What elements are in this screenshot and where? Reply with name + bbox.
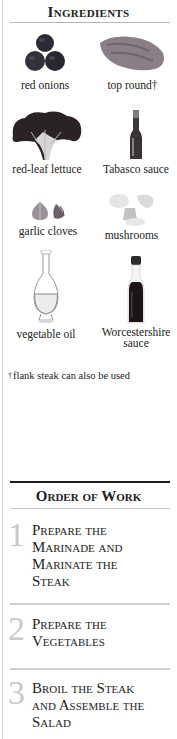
tabasco-bottle-icon	[126, 110, 146, 160]
ingredient-label: red onions	[10, 79, 80, 91]
red-onions-icon	[23, 33, 67, 73]
order-of-work-divider	[10, 508, 170, 509]
ingredient-mushrooms: mushrooms	[88, 192, 175, 241]
ingredient-vegetable-oil: vegetable oil	[2, 250, 90, 340]
worcestershire-bottle-icon	[126, 256, 146, 324]
ingredient-tabasco-sauce: Tabasco sauce	[95, 110, 177, 175]
ingredient-label: red-leaf lettuce	[2, 163, 92, 175]
step-number: 3	[8, 676, 25, 710]
oil-carafe-icon	[31, 250, 61, 325]
ingredient-red-onions: red onions	[10, 33, 80, 91]
step-number: 1	[8, 518, 25, 552]
step-3: 3 Broil the Steak and Assemble the Salad	[8, 676, 173, 738]
order-of-work-top-rule	[10, 481, 170, 483]
ingredient-label: garlic cloves	[8, 225, 88, 237]
ingredient-label: Tabasco sauce	[95, 163, 177, 175]
ingredients-heading: Ingredients	[0, 4, 177, 21]
step-text: Prepare the Marinade and Marinate the St…	[32, 522, 177, 590]
step-divider	[10, 668, 170, 670]
ingredient-label: mushrooms	[88, 229, 175, 241]
step-divider	[10, 603, 170, 605]
mushrooms-icon	[107, 192, 157, 226]
step-text: Prepare the Vegetables	[32, 616, 177, 650]
red-leaf-lettuce-icon	[9, 110, 85, 160]
top-round-steak-icon	[97, 33, 169, 73]
step-text: Broil the Steak and Assemble the Salad	[32, 680, 177, 731]
ingredients-divider	[10, 22, 170, 23]
garlic-cloves-icon	[28, 200, 68, 222]
step-number: 2	[8, 612, 25, 646]
ingredient-red-leaf-lettuce: red-leaf lettuce	[2, 110, 92, 175]
ingredient-label: top round†	[90, 79, 175, 91]
ingredient-top-round: top round†	[90, 33, 175, 91]
footnote: †flank steak can also be used	[8, 370, 130, 381]
ingredient-label: Worcestershire sauce	[95, 327, 177, 349]
ingredient-garlic-cloves: garlic cloves	[8, 200, 88, 237]
ingredient-worcestershire-sauce: Worcestershire sauce	[95, 256, 177, 349]
step-1: 1 Prepare the Marinade and Marinate the …	[8, 518, 173, 598]
dagger-mark: †	[8, 371, 12, 380]
order-of-work-heading: Order of Work	[0, 488, 177, 505]
step-2: 2 Prepare the Vegetables	[8, 612, 173, 658]
footnote-text: flank steak can also be used	[13, 370, 130, 381]
ingredient-label: vegetable oil	[2, 328, 90, 340]
